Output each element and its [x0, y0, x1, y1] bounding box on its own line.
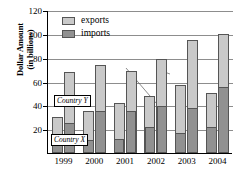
- bar-segment-imports: [175, 133, 186, 153]
- x-axis-tick-label: 1999: [54, 157, 72, 166]
- x-axis-tick-label: 2002: [147, 157, 165, 166]
- bar-country-y-2002: [156, 59, 167, 153]
- bar-segment-imports: [218, 87, 229, 153]
- y-axis-tick-label: 20: [33, 126, 42, 135]
- legend-swatch-exports: [62, 17, 75, 25]
- bar-segment-imports: [157, 106, 168, 152]
- bar-segment-imports: [114, 139, 125, 153]
- bar-country-x-2001: [114, 103, 125, 153]
- legend-label-exports: exports: [81, 14, 109, 27]
- bar-group: 2002: [144, 11, 167, 153]
- y-axis-tick-label: 100: [29, 30, 43, 39]
- x-axis-tick-label: 2003: [178, 157, 196, 166]
- bar-chart: Dollar Amount (in billions) 204060801001…: [0, 0, 238, 182]
- bar-group: 2003: [175, 11, 198, 153]
- x-axis-tick-label: 2004: [209, 157, 227, 166]
- legend-label-imports: imports: [81, 27, 110, 40]
- bar-group: 2004: [206, 11, 229, 153]
- bar-country-y-2000: [95, 65, 106, 153]
- bar-country-y-2001: [126, 71, 137, 153]
- country-y-callout: Country Y: [54, 95, 91, 107]
- legend: exports imports: [62, 14, 110, 40]
- bar-country-x-2000: [83, 111, 94, 153]
- bar-country-x-2003: [175, 85, 186, 153]
- bar-country-y-2004: [218, 34, 229, 153]
- legend-item-exports: exports: [62, 14, 110, 27]
- bar-country-y-2003: [187, 40, 198, 153]
- bar-segment-imports: [145, 127, 156, 153]
- bar-country-x-2002: [144, 96, 155, 153]
- country-x-callout: Country X: [51, 134, 88, 146]
- y-axis-tick-label: 120: [29, 7, 43, 16]
- bar-segment-imports: [206, 127, 217, 153]
- y-axis-tick-label: 80: [33, 54, 42, 63]
- y-axis-title: Dollar Amount (in billions): [16, 0, 35, 105]
- bar-segment-imports: [126, 111, 137, 153]
- bar-segment-imports: [95, 111, 106, 153]
- bar-segment-imports: [187, 108, 198, 153]
- x-axis-tick-label: 2001: [116, 157, 134, 166]
- legend-item-imports: imports: [62, 27, 110, 40]
- y-axis-tick-label: 60: [33, 78, 42, 87]
- bar-group: 2001: [114, 11, 137, 153]
- x-axis-tick-label: 2000: [85, 157, 103, 166]
- y-axis-tick-label: 40: [33, 102, 42, 111]
- legend-swatch-imports: [62, 30, 75, 38]
- bar-country-x-2004: [206, 93, 217, 153]
